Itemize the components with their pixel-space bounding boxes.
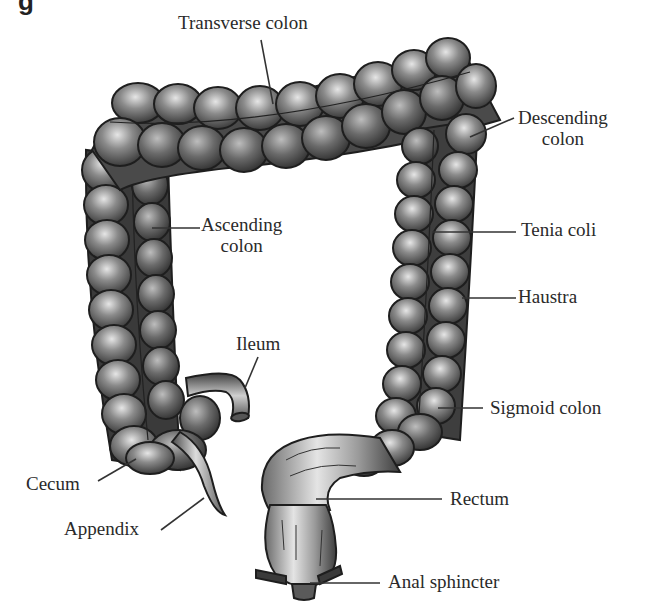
leader-appendix — [161, 498, 204, 530]
ascending-colon-shape — [82, 148, 184, 470]
label-transverse-colon: Transverse colon — [178, 12, 308, 33]
label-cecum: Cecum — [26, 473, 80, 494]
label-descending-colon: Descending colon — [518, 107, 608, 149]
colon-anatomy-figure: g — [0, 0, 656, 613]
leader-cecum — [98, 459, 136, 481]
descending-colon-shape — [376, 114, 486, 440]
label-haustra: Haustra — [518, 286, 577, 307]
label-anal-sphincter: Anal sphincter — [388, 571, 499, 592]
label-ileum: Ileum — [236, 333, 280, 354]
label-rectum: Rectum — [450, 488, 509, 509]
leader-ileum — [245, 357, 258, 388]
label-ascending-colon: Ascending colon — [201, 214, 282, 256]
label-tenia-coli: Tenia coli — [521, 219, 596, 240]
label-sigmoid-colon: Sigmoid colon — [490, 397, 601, 418]
label-appendix: Appendix — [64, 518, 139, 539]
